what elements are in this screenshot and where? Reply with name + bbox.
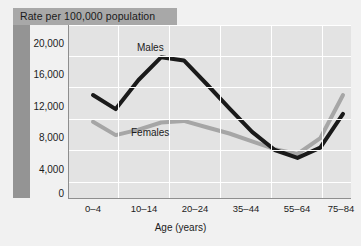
gridline-horizontal: [68, 182, 351, 183]
y-tick-label: 4,000: [39, 164, 64, 175]
x-axis-title: Age (years): [0, 222, 361, 233]
x-tick-label: 20–24: [182, 203, 208, 214]
x-tick-label: 0–4: [85, 203, 101, 214]
x-tick-label: 55–64: [284, 203, 310, 214]
y-axis-line: [68, 25, 69, 199]
gridline-horizontal: [68, 25, 351, 26]
males-line: [93, 57, 343, 158]
gridline-vertical: [220, 25, 221, 198]
x-tick-label: 35–44: [233, 203, 259, 214]
plot-area: [68, 25, 351, 198]
y-axis-ticks: 20,000 16,000 12,000 8,000 4,000 0: [0, 0, 64, 246]
gridline-horizontal: [68, 56, 351, 57]
gridline-horizontal: [68, 87, 351, 88]
gridline-vertical: [169, 25, 170, 198]
x-tick-label: 10–14: [131, 203, 157, 214]
chart-figure: Rate per 100,000 population 20,000 16,00…: [0, 0, 361, 246]
y-tick-label: 0: [58, 188, 64, 199]
females-line: [93, 95, 343, 154]
x-axis-line: [68, 198, 351, 199]
gridline-horizontal: [68, 150, 351, 151]
gridline-horizontal: [68, 119, 351, 120]
y-tick-label: 16,000: [33, 69, 64, 80]
series-lines: [68, 25, 351, 198]
gridline-vertical: [118, 25, 119, 198]
series-label-males: Males: [137, 42, 164, 53]
series-label-females: Females: [131, 127, 169, 138]
gridline-vertical: [322, 25, 323, 198]
y-tick-label: 20,000: [33, 38, 64, 49]
gridline-vertical: [271, 25, 272, 198]
y-tick-label: 8,000: [39, 132, 64, 143]
y-tick-label: 12,000: [33, 101, 64, 112]
x-tick-label: 75–84: [328, 203, 354, 214]
